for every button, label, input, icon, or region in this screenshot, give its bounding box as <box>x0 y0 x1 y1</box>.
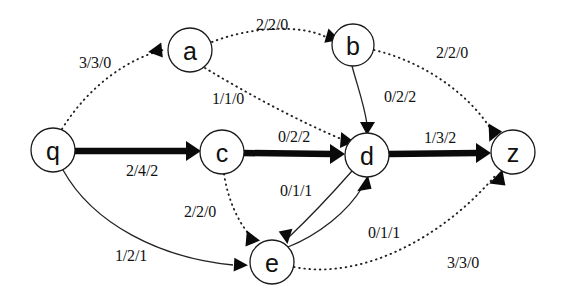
edges-layer <box>62 28 505 272</box>
node-e[interactable]: e <box>250 240 294 284</box>
node-a-label: a <box>183 37 197 65</box>
edge-label-c-d: 0/2/2 <box>278 128 310 145</box>
node-z[interactable]: z <box>491 130 535 174</box>
node-b[interactable]: b <box>332 24 374 66</box>
edge-q-e-arrow-icon <box>234 258 249 273</box>
edge-label-b-d: 0/2/2 <box>384 88 416 105</box>
node-z-label: z <box>507 139 520 167</box>
edge-d-z-arrow-icon <box>476 143 491 163</box>
edge-label-b-z: 2/2/0 <box>436 44 468 61</box>
edge-q-a-path <box>62 50 163 129</box>
edge-d-z-path <box>389 153 478 154</box>
node-c-label: c <box>216 139 229 167</box>
edge-label-d-e: 0/1/1 <box>280 182 312 199</box>
edge-label-d-z: 1/3/2 <box>424 129 456 146</box>
edge-label-c-e: 2/2/0 <box>184 203 216 220</box>
edge-label-q-a: 3/3/0 <box>79 54 111 71</box>
edge-label-e-d: 0/1/1 <box>368 224 400 241</box>
node-e-label: e <box>265 249 279 277</box>
edge-q-a-arrow-icon <box>147 43 162 59</box>
edge-label-q-e: 1/2/1 <box>115 247 147 264</box>
edge-c-d <box>244 144 345 164</box>
node-a[interactable]: a <box>168 28 212 72</box>
node-q-label: q <box>46 137 60 165</box>
edge-c-d-path <box>244 153 332 154</box>
edge-label-a-b: 2/2/0 <box>256 16 288 33</box>
edge-q-a <box>62 43 163 129</box>
edge-label-q-c: 2/4/2 <box>126 162 158 179</box>
edge-c-d-arrow-icon <box>330 144 345 164</box>
edge-q-e <box>63 170 248 272</box>
edge-d-z <box>389 143 491 163</box>
edge-b-d-path <box>352 66 367 124</box>
flow-network-diagram: q a b c d e <box>0 0 565 296</box>
graph-svg: q a b c d e <box>0 0 565 296</box>
edge-label-e-z: 3/3/0 <box>447 254 479 271</box>
edge-q-c-arrow-icon <box>186 141 201 161</box>
edge-labels-layer: 3/3/0 2/2/0 2/2/0 1/1/0 0/2/2 2/4/2 0/2/… <box>79 16 479 271</box>
edge-q-c <box>75 141 201 161</box>
node-q[interactable]: q <box>31 128 75 172</box>
edge-c-e-path <box>224 174 252 238</box>
edge-label-a-d: 1/1/0 <box>212 90 244 107</box>
node-c[interactable]: c <box>200 130 244 174</box>
node-b-label: b <box>346 32 360 60</box>
edge-b-d <box>352 66 375 135</box>
node-d[interactable]: d <box>345 133 389 177</box>
node-d-label: d <box>360 142 374 170</box>
edge-c-e <box>224 174 262 249</box>
